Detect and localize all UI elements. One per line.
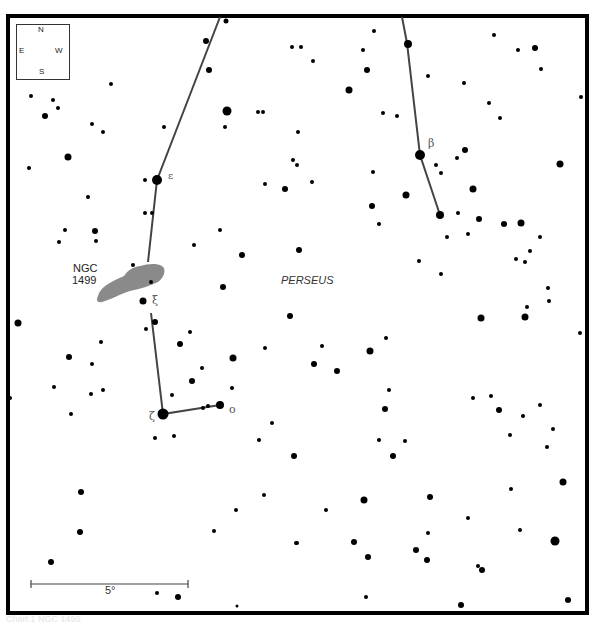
star-chart: N S E W NGC 1499 PERSEUS ε ξ ζ ο β 5° Ch… (0, 0, 592, 627)
star-omicron (216, 401, 224, 409)
compass-east: E (19, 46, 24, 55)
label-zeta: ζ (149, 410, 155, 423)
star-beta (415, 150, 425, 160)
stars (8, 19, 583, 609)
compass-south: S (39, 67, 44, 76)
star-field (0, 0, 592, 627)
nebula-label-line1: NGC (73, 262, 97, 274)
figure-caption: Chart 1 NGC 1499 (6, 614, 81, 624)
label-omicron: ο (229, 403, 236, 416)
star-zeta (158, 409, 169, 420)
compass-north: N (38, 25, 44, 34)
constellation-lines (148, 17, 440, 414)
label-beta: β (428, 137, 434, 150)
compass-box: N S E W (16, 24, 70, 80)
star-kappa (436, 211, 444, 219)
label-epsilon: ε (168, 170, 173, 181)
star-xi (140, 298, 147, 305)
scale-bar-label: 5° (105, 584, 116, 596)
star-epsilon (152, 175, 162, 185)
compass-west: W (55, 46, 63, 55)
nebula-label-line2: 1499 (72, 274, 96, 286)
constellation-label: PERSEUS (281, 274, 334, 286)
label-xi: ξ (152, 294, 158, 307)
